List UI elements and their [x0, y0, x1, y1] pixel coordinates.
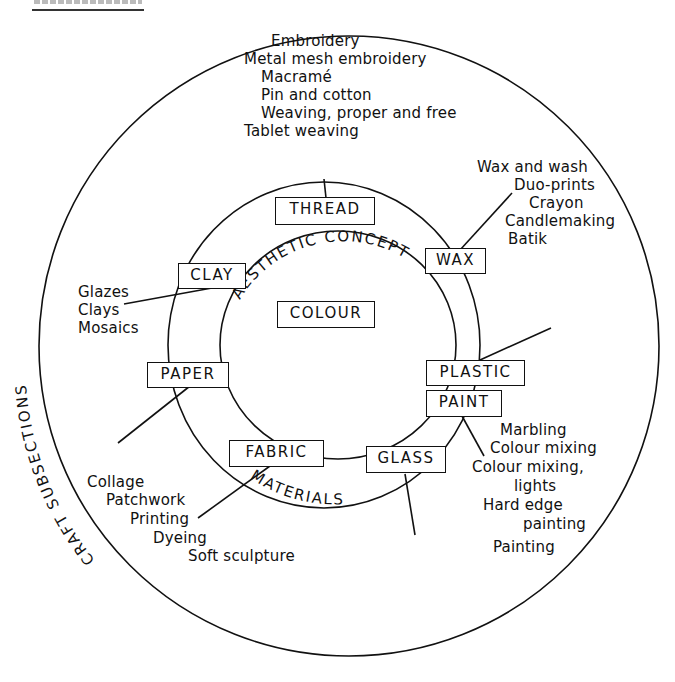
material-wax: WAX [425, 248, 486, 274]
clay-item: Glazes [78, 283, 129, 302]
paint-item: Painting [493, 538, 555, 557]
wax-item: Wax and wash [477, 158, 588, 177]
material-clay: CLAY [178, 263, 246, 289]
materials-label: MATERIALS [248, 466, 345, 508]
thread-item: Metal mesh embroidery [244, 50, 427, 69]
paint-item: Marbling [500, 421, 567, 440]
paper-item: Collage [87, 473, 144, 492]
craft-subsections-label: CRAFT SUBSECTIONS [12, 383, 98, 569]
wax-item: Duo-prints [514, 176, 595, 195]
material-thread: THREAD [275, 197, 375, 225]
paint-item: painting [523, 515, 586, 534]
wax-item: Crayon [529, 194, 584, 213]
paper-item: Patchwork [106, 491, 185, 510]
thread-item: Pin and cotton [261, 86, 372, 105]
thread-item: Tablet weaving [244, 122, 359, 141]
material-paint: PAINT [426, 390, 502, 417]
paper-item: Soft sculpture [188, 547, 295, 566]
paper-item: Printing [130, 510, 189, 529]
material-fabric: FABRIC [229, 440, 324, 467]
clay-item: Clays [78, 301, 120, 320]
thread-item: Weaving, proper and free [261, 104, 457, 123]
thread-item: Macramé [261, 68, 332, 87]
thread-item: Embroidery [271, 32, 360, 51]
paper-item: Dyeing [153, 529, 207, 548]
wax-item: Batik [508, 230, 547, 249]
clay-item: Mosaics [78, 319, 139, 338]
paint-item: lights [514, 477, 556, 496]
material-paper: PAPER [147, 362, 229, 388]
wax-item: Candlemaking [505, 212, 615, 231]
paint-item: Colour mixing, [472, 458, 584, 477]
aesthetic-concept-label: AESTHETIC CONCEPT [228, 227, 413, 302]
paint-item: Hard edge [483, 496, 563, 515]
center-colour: COLOUR [277, 301, 375, 328]
material-glass: GLASS [366, 446, 446, 473]
material-plastic: PLASTIC [426, 360, 525, 386]
paint-item: Colour mixing [490, 439, 597, 458]
